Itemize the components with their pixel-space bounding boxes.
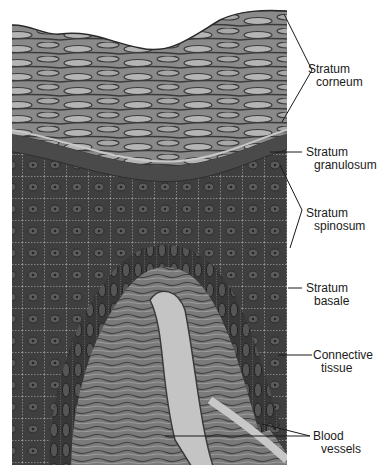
label-line1: Connective bbox=[313, 348, 373, 362]
label-stratum-corneum: Stratum corneum bbox=[308, 63, 363, 89]
label-line2: spinosum bbox=[306, 220, 365, 233]
label-line2: corneum bbox=[308, 76, 363, 89]
label-line2: basale bbox=[306, 295, 349, 308]
skin-histology-figure: Stratum corneum Stratum granulosum Strat… bbox=[0, 0, 387, 472]
label-line1: Stratum bbox=[306, 281, 348, 295]
label-blood-vessels: Blood vessels bbox=[313, 430, 361, 456]
label-connective-tissue: Connective tissue bbox=[313, 349, 373, 375]
label-line2: granulosum bbox=[306, 159, 377, 172]
label-stratum-spinosum: Stratum spinosum bbox=[306, 207, 365, 233]
label-line1: Stratum bbox=[308, 62, 350, 76]
tissue-layers bbox=[0, 0, 300, 472]
label-line1: Stratum bbox=[306, 206, 348, 220]
label-stratum-granulosum: Stratum granulosum bbox=[306, 146, 377, 172]
label-line1: Stratum bbox=[306, 145, 348, 159]
label-stratum-basale: Stratum basale bbox=[306, 282, 349, 308]
label-line1: Blood bbox=[313, 429, 344, 443]
label-line2: vessels bbox=[313, 443, 361, 456]
label-line2: tissue bbox=[313, 362, 373, 375]
